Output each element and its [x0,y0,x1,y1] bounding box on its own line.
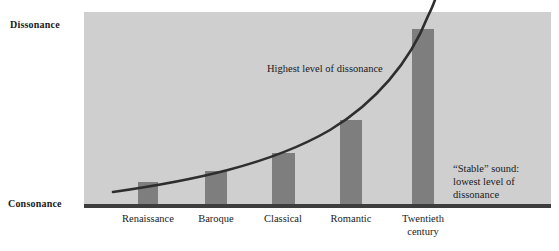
stable-annotation-line3: dissonance [453,188,548,201]
bar-baroque [205,171,227,207]
bar-classical [272,153,295,207]
peak-annotation: Highest level of dissonance [267,62,383,75]
x-axis-baseline [84,204,551,208]
bar-romantic [340,120,362,207]
axis-label-consonance: Consonance [8,198,62,209]
axis-label-dissonance: Dissonance [10,19,60,30]
stable-annotation-line1: “Stable” sound: [453,162,548,175]
bar-twentieth-century [412,29,434,207]
dissonance-chart-figure: Dissonance Consonance Renaissance Baroqu… [0,0,559,251]
category-label-twentieth-century: Twentieth century [378,213,468,238]
category-label-line1: Twentieth [402,213,444,224]
stable-annotation-line2: lowest level of [453,175,548,188]
category-label-line2: century [407,226,439,237]
stable-annotation: “Stable” sound: lowest level of dissonan… [453,162,548,201]
